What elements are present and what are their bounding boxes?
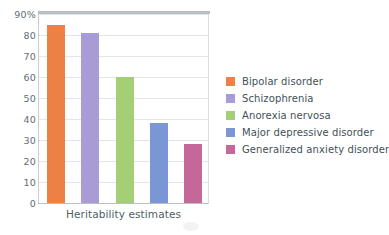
y-axis-tick-label: 50 (0, 94, 36, 103)
y-axis-tick-label: 90% (0, 10, 36, 19)
legend-color-swatch (226, 145, 235, 154)
legend-item: Major depressive disorder (226, 124, 389, 141)
legend-item: Schizophrenia (226, 90, 389, 107)
legend-color-swatch (226, 77, 235, 86)
bar (116, 77, 134, 203)
legend-color-swatch (226, 111, 235, 120)
legend-item-label: Schizophrenia (242, 93, 314, 104)
y-axis-tick-label: 10 (0, 178, 36, 187)
legend-item-label: Major depressive disorder (242, 127, 374, 138)
bar (184, 144, 202, 203)
y-axis-tick-label: 60 (0, 73, 36, 82)
legend: Bipolar disorderSchizophreniaAnorexia ne… (226, 73, 389, 158)
legend-color-swatch (226, 94, 235, 103)
y-axis-tick-label: 0 (0, 199, 36, 208)
bar (150, 123, 168, 203)
y-axis-tick-label: 20 (0, 157, 36, 166)
legend-item-label: Anorexia nervosa (242, 110, 331, 121)
plot-area (38, 14, 209, 204)
legend-item: Generalized anxiety disorder (226, 141, 389, 158)
y-axis-tick-label: 40 (0, 115, 36, 124)
bar-series (39, 14, 208, 203)
legend-item-label: Generalized anxiety disorder (242, 144, 389, 155)
legend-item: Anorexia nervosa (226, 107, 389, 124)
x-axis-title: Heritability estimates (38, 208, 209, 220)
legend-color-swatch (226, 128, 235, 137)
legend-item: Bipolar disorder (226, 73, 389, 90)
y-axis-tick-label: 70 (0, 52, 36, 61)
scan-artifact (183, 222, 199, 231)
bar (81, 33, 99, 203)
bar (47, 25, 65, 204)
y-axis: 90%80706050403020100 (0, 0, 36, 235)
legend-item-label: Bipolar disorder (242, 76, 323, 87)
y-axis-tick-label: 80 (0, 31, 36, 40)
y-axis-tick-label: 30 (0, 136, 36, 145)
